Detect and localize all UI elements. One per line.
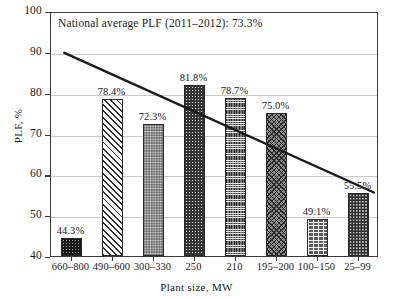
- y-axis-tick-mark: [45, 257, 50, 258]
- bar: [225, 98, 246, 256]
- bar-value-label: 78.7%: [213, 85, 257, 96]
- gridline: [51, 136, 377, 137]
- y-axis-tick-label: 80: [12, 86, 42, 98]
- bar: [102, 99, 123, 256]
- y-axis-tick-label: 90: [12, 45, 42, 57]
- bar-value-label: 78.4%: [90, 86, 134, 97]
- gridline: [51, 217, 377, 218]
- bar: [61, 238, 82, 256]
- y-axis-tick-label: 100: [12, 4, 42, 16]
- x-axis-tick-label: 25–99: [333, 261, 383, 272]
- y-axis-tick-label: 40: [12, 249, 42, 261]
- plot-area: [50, 12, 378, 257]
- gridline: [51, 54, 377, 55]
- bar-value-label: 49.1%: [295, 206, 339, 217]
- bar-value-label: 72.3%: [131, 111, 175, 122]
- bar-value-label: 81.8%: [172, 72, 216, 83]
- bar-value-label: 55.5%: [336, 180, 380, 191]
- gridline: [51, 176, 377, 177]
- national-average-annotation: National average PLF (2011–2012): 73.3%: [58, 17, 262, 29]
- chart-figure: PLF, % 405060708090100 44.3%78.4%72.3%81…: [0, 0, 393, 299]
- x-axis-title: Plant size, MW: [0, 281, 393, 293]
- bar: [266, 113, 287, 256]
- bar: [307, 219, 328, 256]
- bar-value-label: 44.3%: [49, 225, 93, 236]
- bar: [143, 124, 164, 256]
- y-axis-tick-label: 50: [12, 208, 42, 220]
- y-axis-tick-label: 70: [12, 127, 42, 139]
- y-axis-tick-label: 60: [12, 167, 42, 179]
- bar-value-label: 75.0%: [254, 100, 298, 111]
- bar: [348, 193, 369, 256]
- bar: [184, 85, 205, 256]
